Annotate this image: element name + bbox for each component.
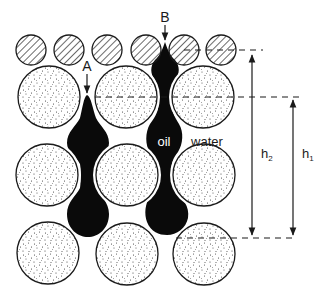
stippled-grain — [96, 223, 158, 285]
grain-row-1 — [15, 63, 237, 131]
stippled-grain — [172, 66, 234, 128]
hatched-grain — [54, 35, 84, 65]
grain-row-3 — [17, 222, 235, 285]
hatched-grain — [16, 35, 46, 65]
label-oil: oil — [157, 134, 170, 149]
stippled-grain — [173, 144, 235, 206]
label-b: B — [160, 9, 169, 25]
label-a: A — [82, 58, 92, 74]
hatched-grains — [16, 35, 236, 65]
grain-row-2 — [13, 141, 238, 209]
stippled-grain — [173, 223, 235, 285]
stippled-grain — [16, 144, 78, 206]
large-grains — [13, 63, 238, 285]
hatched-grain — [92, 35, 122, 65]
label-h2: h2 — [261, 146, 273, 163]
stippled-grain — [18, 66, 80, 128]
pore-diagram: A B oil water h2 h1 — [0, 0, 324, 298]
label-h1: h1 — [302, 146, 314, 163]
dimension-arrows — [252, 55, 293, 235]
label-water: water — [190, 134, 223, 149]
stippled-grain — [17, 222, 79, 284]
hatched-grain — [131, 35, 161, 65]
stippled-grain — [95, 66, 157, 128]
stippled-grain — [96, 144, 158, 206]
